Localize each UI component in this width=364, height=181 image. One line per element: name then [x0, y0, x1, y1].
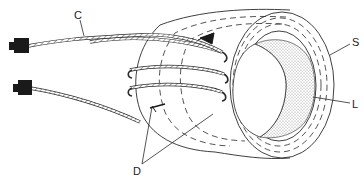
cable-windings — [90, 38, 228, 101]
plug-lower — [13, 80, 32, 95]
label-s: S — [352, 36, 359, 48]
label-c: C — [74, 9, 82, 21]
cable-lower-lead — [30, 88, 140, 122]
toroidal-coil-diagram: C S L D — [0, 0, 364, 181]
plug-upper — [9, 38, 29, 53]
label-d: D — [133, 165, 141, 177]
label-l: L — [352, 98, 358, 110]
